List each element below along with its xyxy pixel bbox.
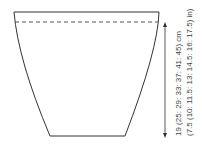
measurement-arrow bbox=[163, 22, 167, 138]
schematic-diagram: 19 (25: 29: 33: 37: 41: 45) cm (7.5 (10:… bbox=[0, 0, 202, 155]
measurement-in-label: (7.5 (10: 11.5: 13: 14.5: 16: 17.5) in) bbox=[185, 8, 194, 136]
piece-outline bbox=[14, 12, 159, 136]
measurement-cm-label: 19 (25: 29: 33: 37: 41: 45) cm bbox=[174, 31, 183, 136]
arrow-down-icon bbox=[163, 133, 167, 138]
arrow-up-icon bbox=[163, 22, 167, 27]
